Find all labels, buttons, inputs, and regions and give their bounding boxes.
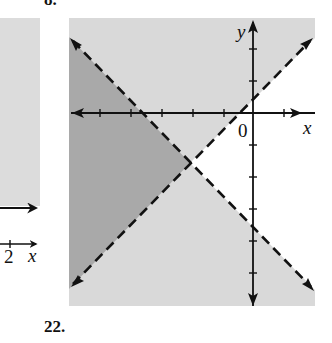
left-tick-label: 2 (4, 246, 14, 267)
origin-label: 0 (238, 120, 248, 141)
left-x-axis-label: x (27, 245, 37, 266)
x-axis-label: x (302, 117, 312, 138)
left-shaded-region (0, 18, 40, 206)
main-graph: y x 0 (69, 18, 315, 306)
left-partial-graph: 2 x (0, 18, 40, 267)
y-axis-label: y (235, 21, 246, 42)
graphs-canvas: 2 x (0, 0, 332, 343)
